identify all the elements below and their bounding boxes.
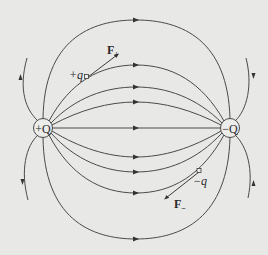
force-negative-subscript: − [181,204,186,213]
arrow-right-icon [133,18,139,23]
force-negative-label: F− [174,197,186,213]
field-line [23,58,38,121]
field-line [24,135,38,200]
arrow-down-icon [21,179,25,185]
arrow-right-icon [133,155,139,160]
field-line [235,135,250,198]
arrow-right-icon [133,237,139,242]
charge-negative: −Q [221,119,240,138]
arrow-right-icon [133,63,139,68]
arrow-up-icon [19,74,23,80]
test-charge-positive-label: +q [69,68,83,82]
dipole-field-diagram: +Q −Q +q F+ −q F− [0,0,268,255]
force-positive-label: F+ [107,43,119,59]
arrow-down-icon [252,73,256,79]
arrow-up-icon [252,180,256,186]
field-line [52,102,221,125]
force-vector-positive [85,55,118,79]
charge-negative-label: −Q [222,122,238,136]
test-charge-negative-marker [197,169,201,173]
force-negative-symbol: F [174,197,181,211]
arrow-right-icon [133,170,139,175]
field-line [51,87,222,123]
field-line [51,133,222,172]
force-positive-symbol: F [107,43,114,57]
field-line [235,58,249,121]
arrow-right-icon [133,191,139,196]
test-charge-negative-label: −q [193,174,207,188]
field-line [43,137,230,239]
arrow-right-icon [133,85,139,90]
arrow-right-icon [133,100,139,105]
arrow-right-icon [133,126,139,131]
field-line [52,131,221,157]
test-charge-positive-marker [85,75,89,79]
charge-positive: +Q [34,119,53,138]
field-arrows [19,18,256,242]
charge-positive-label: +Q [35,122,51,136]
force-positive-subscript: + [114,50,119,59]
field-lines-outer [23,58,250,200]
